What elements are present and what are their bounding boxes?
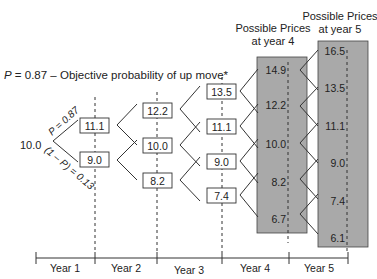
axis-label-year5: Year 5 xyxy=(304,262,334,274)
node-value: 9.0 xyxy=(214,156,229,168)
axis-label-year4: Year 4 xyxy=(240,262,270,274)
node-value: 7.4 xyxy=(330,195,345,207)
node-value: 11.1 xyxy=(212,121,232,133)
axis-label-year3: Year 3 xyxy=(174,264,204,276)
node-value: 7.4 xyxy=(214,190,229,202)
node-value: 12.2 xyxy=(147,105,168,117)
node-value: 11.1 xyxy=(85,120,105,132)
year4-header-line2: at year 4 xyxy=(252,35,295,47)
binomial-tree-diagram: Possible Prices at year 4 Possible Price… xyxy=(0,0,377,279)
year5-price-panel xyxy=(318,41,368,247)
axis-label-year2: Year 2 xyxy=(111,262,141,274)
node-value: 9.0 xyxy=(330,157,345,169)
node-value: 13.5 xyxy=(325,82,346,94)
branch-label-down: (1 – P) = 0.13 xyxy=(43,144,97,192)
node-value: 10.0 xyxy=(266,138,287,150)
node-value: 9.0 xyxy=(87,154,102,166)
year1-nodes: 11.1 9.0 xyxy=(80,118,109,167)
node-value: 14.9 xyxy=(266,64,287,76)
axis-label-year1: Year 1 xyxy=(50,262,80,274)
year4-header-line1: Possible Prices xyxy=(235,22,311,34)
node-value: 12.2 xyxy=(266,99,287,111)
node-value: 16.5 xyxy=(325,45,346,57)
node-value: 8.2 xyxy=(150,175,165,187)
axis-labels: Year 1 Year 2 Year 3 Year 4 Year 5 xyxy=(50,262,334,276)
node-value: 6.7 xyxy=(271,213,286,225)
year5-header-line1: Possible Prices xyxy=(302,10,377,22)
node-value: 10.0 xyxy=(147,140,168,152)
year5-header-line2: at year 5 xyxy=(319,23,362,35)
node-value: 13.5 xyxy=(211,86,232,98)
start-value: 10.0 xyxy=(20,139,41,151)
year2-nodes: 12.2 10.0 8.2 xyxy=(143,103,172,188)
node-value: 8.2 xyxy=(271,176,286,188)
node-value: 6.1 xyxy=(330,232,345,244)
node-value: 11.1 xyxy=(325,120,345,132)
probability-title: P = 0.87 – Objective probability of up m… xyxy=(4,69,229,81)
time-axis xyxy=(36,252,348,264)
